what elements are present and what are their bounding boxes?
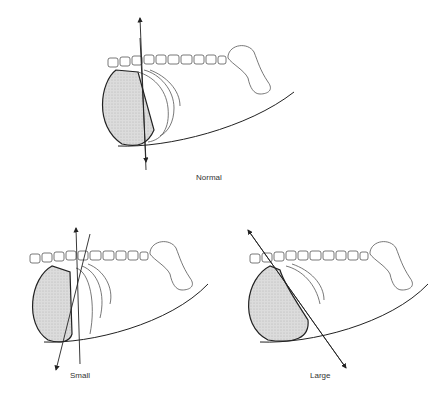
label-large: Large: [310, 371, 330, 380]
heart-shaded: [249, 266, 309, 341]
label-small: Small: [70, 371, 90, 380]
panel-normal: [103, 18, 295, 170]
axis-arrow: [76, 228, 80, 364]
label-normal: Normal: [196, 173, 222, 182]
panel-small: [30, 228, 208, 370]
panel-large: [248, 230, 428, 368]
heart-shaded: [103, 70, 155, 145]
figure-canvas: [0, 0, 440, 394]
